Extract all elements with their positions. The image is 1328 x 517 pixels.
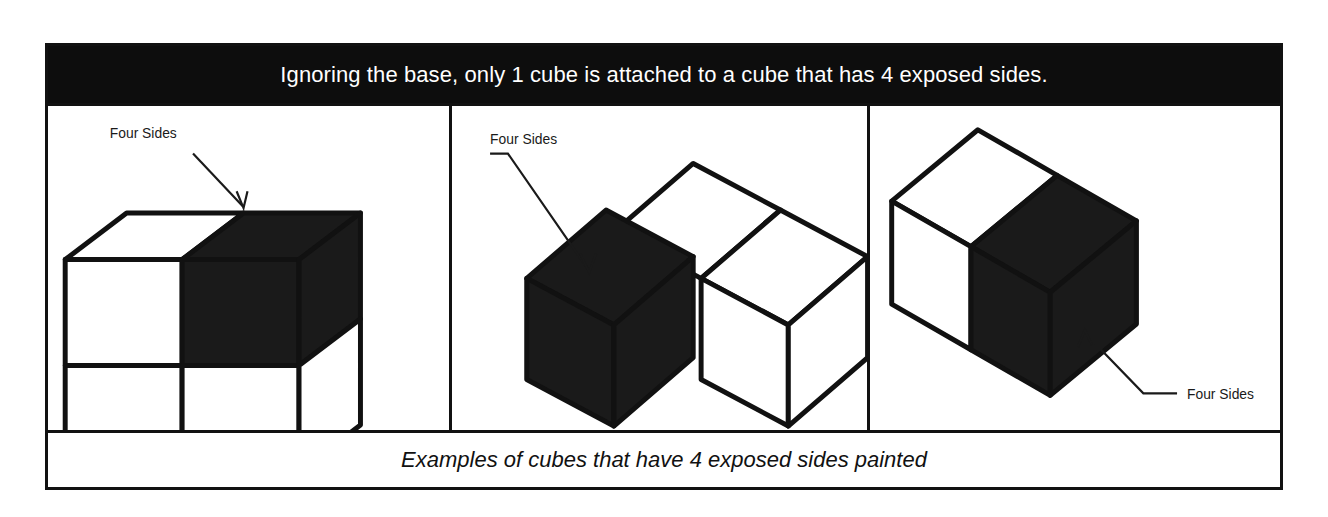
callout-label-four-sides-2: Four Sides [490,131,557,147]
callout-label-four-sides-3: Four Sides [1187,386,1254,402]
cube-front-face-lower-left [65,366,182,430]
panels-row: Four Sides [48,103,1280,430]
cube-diagram-row-of-two: Four Sides [870,106,1280,430]
diagram-panel-2: Four Sides [452,106,870,430]
cube-diagram-l-shape: Four Sides [452,106,867,430]
callout-label-four-sides-1: Four Sides [110,125,177,141]
cube-diagram-2x2-wall: Four Sides [48,106,449,430]
figure-frame: Ignoring the base, only 1 cube is attach… [45,43,1283,490]
diagram-panel-3: Four Sides [870,106,1280,430]
callout-leader-line-1 [193,154,247,208]
caption-strip: Examples of cubes that have 4 exposed si… [48,430,1280,487]
callout-leader-line-2 [490,154,596,273]
cube-front-face-upper-left [65,260,182,366]
header-band: Ignoring the base, only 1 cube is attach… [48,46,1280,103]
cube-front-face-lower-right [182,366,299,430]
header-statement: Ignoring the base, only 1 cube is attach… [280,64,1047,86]
cube-front-face-upper-right-shaded [182,260,299,366]
diagram-panel-1: Four Sides [48,106,452,430]
figure-caption: Examples of cubes that have 4 exposed si… [401,449,927,471]
